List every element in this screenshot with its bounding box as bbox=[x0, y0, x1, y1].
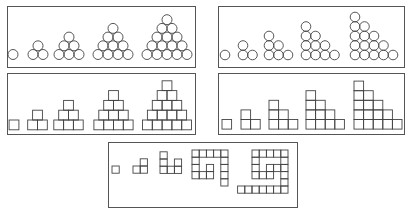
circle-dot bbox=[350, 12, 360, 22]
square-tile bbox=[206, 164, 213, 171]
square-tile bbox=[109, 91, 119, 101]
square-tile bbox=[133, 166, 140, 173]
square-tile bbox=[206, 150, 213, 157]
square-tile bbox=[306, 100, 316, 110]
circle-dot bbox=[379, 41, 389, 51]
square-tile bbox=[157, 110, 167, 120]
square-tile bbox=[316, 100, 326, 110]
square-tile bbox=[354, 91, 364, 101]
square-tile bbox=[281, 172, 288, 179]
square-tile bbox=[54, 120, 64, 130]
square-tile bbox=[199, 172, 206, 179]
square-tile bbox=[269, 100, 279, 110]
square-tile bbox=[160, 159, 167, 166]
circle-dot bbox=[388, 50, 398, 60]
square-tile bbox=[392, 120, 402, 130]
square-tile bbox=[259, 150, 266, 157]
circle-dot bbox=[64, 32, 74, 42]
circle-dot bbox=[330, 50, 340, 60]
square-tile bbox=[94, 120, 104, 130]
square-tile bbox=[252, 164, 259, 171]
square-tile bbox=[266, 164, 273, 171]
square-tile bbox=[73, 120, 83, 130]
circle-dot bbox=[379, 50, 389, 60]
square-tile bbox=[221, 172, 228, 179]
square-tile bbox=[364, 110, 374, 120]
circle-dot bbox=[350, 50, 360, 60]
square-tile bbox=[104, 100, 114, 110]
circle-dot bbox=[220, 50, 230, 60]
square-tile bbox=[383, 110, 393, 120]
square-tile bbox=[269, 110, 279, 120]
square-tile bbox=[59, 110, 69, 120]
circle-dot bbox=[238, 50, 248, 60]
square-tile bbox=[364, 91, 374, 101]
square-tile bbox=[241, 120, 251, 130]
square-tile bbox=[364, 100, 374, 110]
square-tile bbox=[354, 81, 364, 91]
square-tile bbox=[354, 100, 364, 110]
square-tile bbox=[192, 157, 199, 164]
square-tile bbox=[157, 91, 167, 101]
square-tile bbox=[274, 164, 281, 171]
square-tile bbox=[123, 120, 133, 130]
square-tile bbox=[114, 100, 124, 110]
square-tile bbox=[112, 166, 119, 173]
circle-dot bbox=[369, 41, 379, 51]
square-tile bbox=[252, 172, 259, 179]
square-tile bbox=[152, 120, 162, 130]
circle-dot bbox=[301, 31, 311, 41]
square-tile bbox=[221, 157, 228, 164]
circle-dot bbox=[311, 31, 321, 41]
square-tile bbox=[172, 120, 182, 130]
square-tile bbox=[383, 120, 393, 130]
circle-dot bbox=[320, 41, 330, 51]
square-tile bbox=[214, 150, 221, 157]
square-tile bbox=[118, 110, 128, 120]
square-tile bbox=[252, 186, 259, 193]
square-tile bbox=[174, 166, 181, 173]
square-tile bbox=[238, 186, 245, 193]
square-tile bbox=[177, 110, 187, 120]
square-tile bbox=[281, 179, 288, 186]
square-tile bbox=[28, 120, 38, 130]
circle-dot bbox=[264, 50, 274, 60]
square-tile bbox=[174, 159, 181, 166]
square-tile bbox=[167, 166, 174, 173]
square-tile bbox=[252, 150, 259, 157]
square-tile bbox=[281, 164, 288, 171]
circle-dot bbox=[350, 31, 360, 41]
square-tile bbox=[281, 157, 288, 164]
square-tile bbox=[221, 164, 228, 171]
circle-dot bbox=[369, 50, 379, 60]
square-tile bbox=[281, 186, 288, 193]
square-tile bbox=[279, 120, 289, 130]
square-tile bbox=[140, 159, 147, 166]
square-tile bbox=[147, 110, 157, 120]
square-tile bbox=[288, 120, 298, 130]
square-tile bbox=[222, 120, 232, 130]
square-tile bbox=[221, 150, 228, 157]
square-tile bbox=[266, 186, 273, 193]
circle-dot bbox=[283, 50, 293, 60]
square-tile bbox=[140, 166, 147, 173]
square-tile bbox=[143, 120, 153, 130]
square-tile bbox=[109, 110, 119, 120]
square-tile bbox=[69, 110, 79, 120]
square-tile bbox=[114, 120, 124, 130]
circle-dot bbox=[311, 50, 321, 60]
square-tile bbox=[251, 120, 261, 130]
circle-dot bbox=[360, 41, 370, 51]
figurate-number-drawing bbox=[0, 0, 409, 210]
square-tile bbox=[252, 157, 259, 164]
square-tile bbox=[104, 120, 114, 130]
square-tile bbox=[64, 120, 74, 130]
circle-dot bbox=[108, 23, 118, 33]
circle-dot bbox=[264, 41, 274, 51]
square-tile bbox=[162, 81, 172, 91]
square-tile bbox=[325, 110, 335, 120]
circle-dot bbox=[350, 41, 360, 51]
circle-dot bbox=[369, 31, 379, 41]
circle-dot bbox=[360, 31, 370, 41]
circle-dot bbox=[311, 41, 321, 51]
